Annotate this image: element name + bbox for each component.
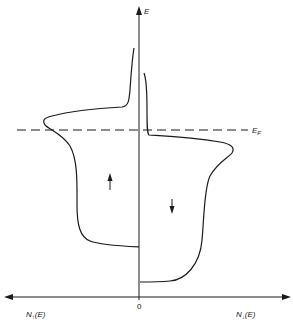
- spin-down-dos-curve: [140, 73, 233, 282]
- down-arrow-icon: [170, 199, 175, 214]
- up-arrow-icon: [108, 173, 113, 190]
- energy-axis: [136, 6, 142, 300]
- density-axis: [4, 294, 291, 300]
- energy-axis-label: E: [144, 8, 149, 16]
- fermi-level-label: EF: [252, 127, 261, 136]
- dos-diagram: [0, 0, 293, 328]
- spin-up-dos-curve: [44, 48, 139, 247]
- origin-label: 0: [137, 303, 141, 311]
- spin-up-density-label: N↑(E): [26, 311, 45, 320]
- spin-down-density-label: N↓(E): [236, 311, 255, 320]
